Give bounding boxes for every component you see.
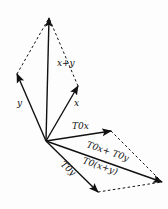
label-T0y: T0y (59, 159, 79, 178)
dashed-edge-y-to-sum (17, 18, 49, 74)
label-y: y (16, 98, 23, 108)
label-T0x: T0x (72, 121, 89, 131)
vector-x-plus-y (46, 18, 49, 141)
vector-diagram: x+y y x T0x T0x+ T0y T0(x+y) T0y (0, 0, 168, 209)
label-x-plus-y: x+y (57, 58, 76, 68)
vector-T0x (46, 131, 111, 141)
diagram-svg: x+y y x T0x T0x+ T0y T0(x+y) T0y (0, 0, 168, 209)
dashed-edge-x-to-sum (49, 18, 78, 86)
vector-x (46, 86, 78, 141)
label-x: x (74, 98, 79, 108)
dashed-edge-T0y-to-sum (98, 182, 162, 192)
